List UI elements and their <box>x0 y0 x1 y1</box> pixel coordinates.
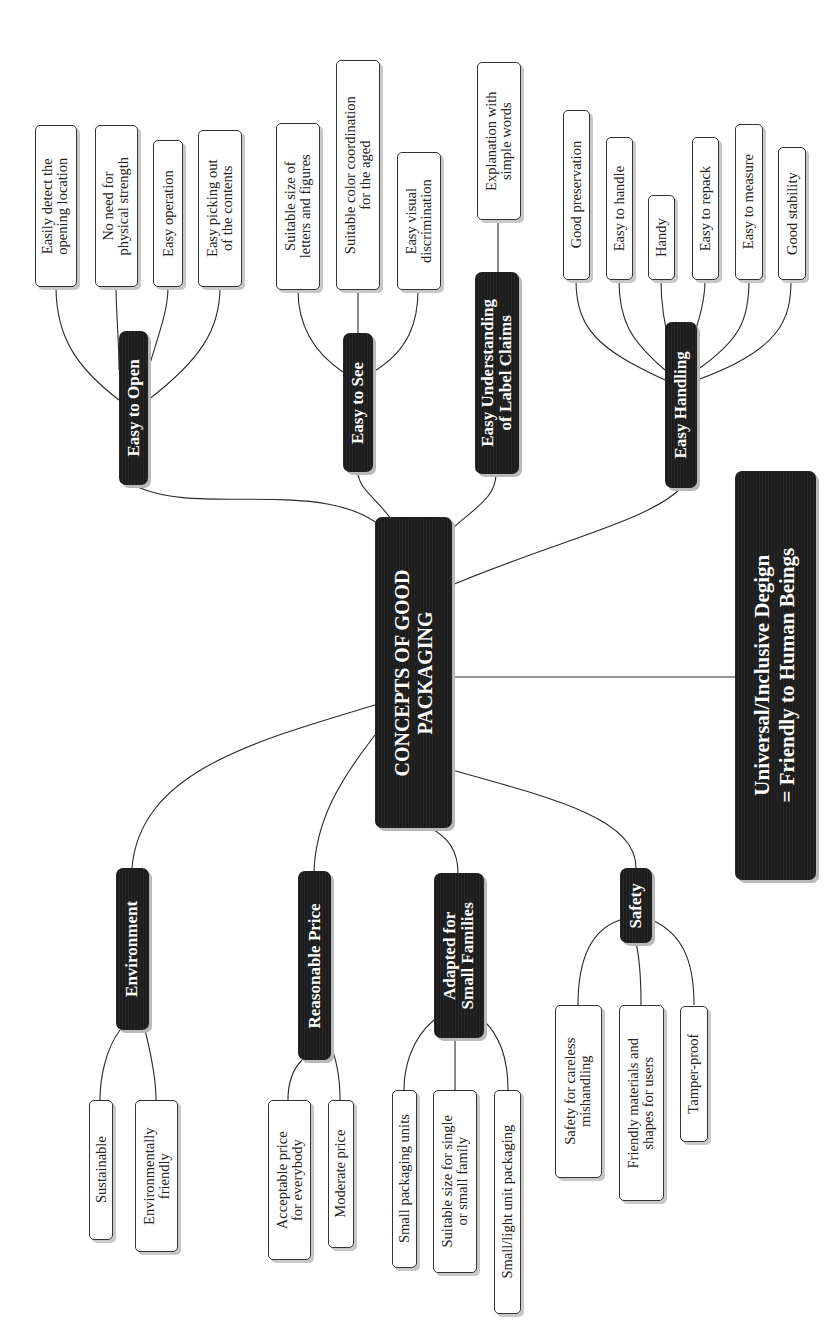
leaf-safety-careless-mishandling: Safety for careless mishandling <box>555 1005 602 1178</box>
leaf-moderate-price: Moderate price <box>328 1100 354 1248</box>
branch-label: Easy to Open <box>125 359 143 456</box>
leaf-sustainable: Sustainable <box>89 1100 113 1240</box>
branch-label: Adapted for Small Families <box>441 902 477 1009</box>
branch-easy-to-open: Easy to Open <box>119 331 148 485</box>
leaf-label: Small/light unit packaging <box>500 1125 515 1279</box>
leaf-label: Suitable size for single or small family <box>440 1115 470 1247</box>
central-concept-label: CONCEPTS OF GOOD PACKAGING <box>391 569 437 776</box>
leaf-easy-to-measure: Easy to measure <box>735 124 763 280</box>
leaf-label: Environmentally friendly <box>141 1127 171 1224</box>
leaf-label: Good stability <box>784 172 799 255</box>
leaf-label: Tamper-proof <box>686 1034 701 1114</box>
leaf-label: Safety for careless mishandling <box>563 1038 593 1145</box>
leaf-label: Handy <box>654 218 669 257</box>
leaf-easy-to-handle: Easy to handle <box>606 137 633 280</box>
leaf-easily-detect-opening: Easily detect the opening location <box>35 125 77 287</box>
branch-label: Easy to See <box>349 361 367 443</box>
leaf-label: Good preservation <box>569 141 584 249</box>
universal-design-label: Universal/Inclusive Degign = Friendly to… <box>750 548 800 803</box>
leaf-suitable-color-coordination: Suitable color coordination for the aged <box>336 60 380 290</box>
branch-label: Easy Handling <box>672 351 690 458</box>
branch-reasonable-price: Reasonable Price <box>298 871 331 1060</box>
branch-label: Easy Understanding of Label Claims <box>479 299 515 447</box>
leaf-label: Acceptable price for everybody <box>274 1131 304 1229</box>
leaf-small-packaging-units: Small packaging units <box>392 1090 417 1268</box>
leaf-label: No need for physical strength <box>101 157 131 256</box>
leaf-suitable-size-letters: Suitable size of letters and figures <box>276 123 320 290</box>
leaf-good-stability: Good stability <box>778 147 806 280</box>
leaf-label: Easy to handle <box>612 166 627 251</box>
leaf-label: Easy to measure <box>741 154 756 249</box>
leaf-label: Easy visual discrimination <box>404 179 434 263</box>
leaf-easy-operation: Easy operation <box>153 140 183 287</box>
leaf-good-preservation: Good preservation <box>563 110 590 280</box>
leaf-label: Small packaging units <box>397 1115 412 1244</box>
branch-easy-handling: Easy Handling <box>665 322 697 488</box>
leaf-easy-to-repack: Easy to repack <box>692 137 719 280</box>
leaf-label: Easy operation <box>160 170 175 257</box>
leaf-label: Easy to repack <box>698 166 713 251</box>
branch-label: Safety <box>627 883 645 928</box>
leaf-label: Easy picking out of the contents <box>205 160 235 257</box>
leaf-label: Suitable size of letters and figures <box>283 155 313 259</box>
leaf-suitable-size-single: Suitable size for single or small family <box>433 1090 477 1273</box>
leaf-environmentally-friendly: Environmentally friendly <box>135 1100 178 1252</box>
branch-easy-understanding: Easy Understanding of Label Claims <box>475 272 519 474</box>
leaf-label: Suitable color coordination for the aged <box>343 96 373 254</box>
leaf-tamper-proof: Tamper-proof <box>680 1006 708 1142</box>
leaf-acceptable-price: Acceptable price for everybody <box>268 1100 311 1260</box>
leaf-label: Friendly materials and shapes for users <box>626 1038 656 1168</box>
leaf-label: Explanation with simple words <box>484 91 514 190</box>
branch-safety: Safety <box>620 868 652 943</box>
central-concept-node: CONCEPTS OF GOOD PACKAGING <box>375 517 452 828</box>
leaf-no-physical-strength: No need for physical strength <box>95 125 138 287</box>
leaf-label: Sustainable <box>93 1137 108 1204</box>
leaf-explanation-simple-words: Explanation with simple words <box>477 62 521 220</box>
branch-label: Environment <box>124 901 142 997</box>
leaf-easy-picking-out: Easy picking out of the contents <box>198 130 242 287</box>
branch-environment: Environment <box>116 868 149 1030</box>
leaf-label: Easily detect the opening location <box>41 157 71 254</box>
leaf-friendly-materials-shapes: Friendly materials and shapes for users <box>619 1005 664 1201</box>
leaf-small-light-unit: Small/light unit packaging <box>494 1090 521 1314</box>
leaf-easy-visual-discrimination: Easy visual discrimination <box>397 152 441 290</box>
branch-easy-to-see: Easy to See <box>343 333 373 472</box>
universal-design-node: Universal/Inclusive Degign = Friendly to… <box>735 471 816 880</box>
leaf-handy: Handy <box>648 195 675 280</box>
branch-small-families: Adapted for Small Families <box>434 873 484 1038</box>
branch-label: Reasonable Price <box>306 903 324 1028</box>
leaf-label: Moderate price <box>333 1130 348 1218</box>
